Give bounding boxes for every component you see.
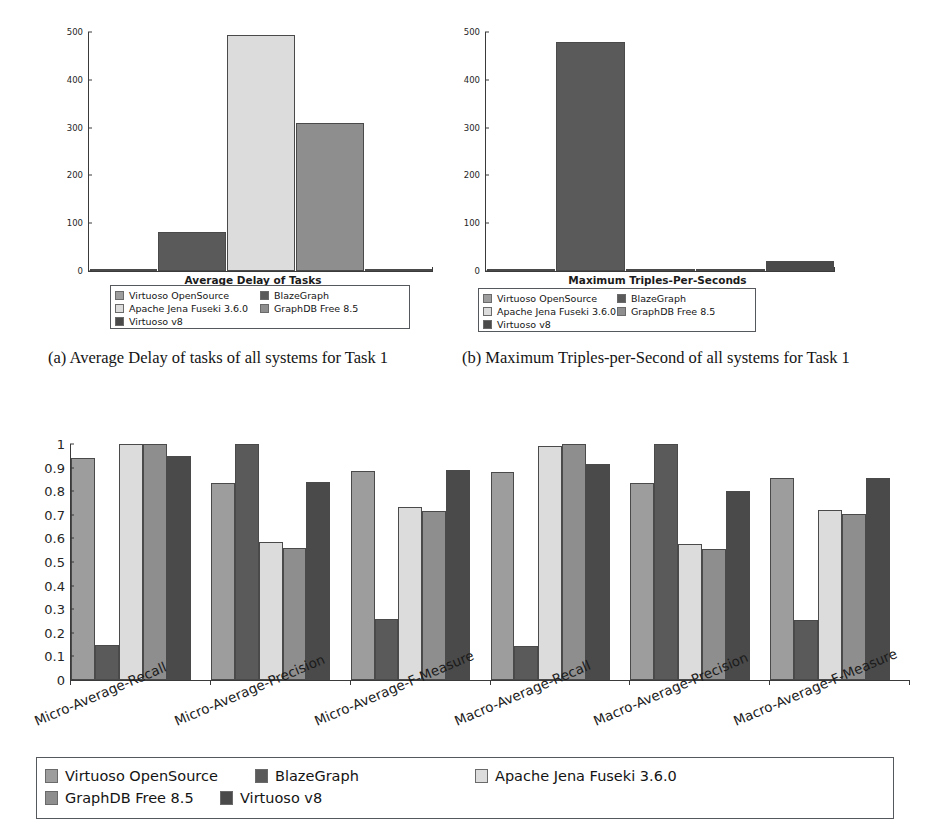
legend-item-label: Apache Jena Fuseki 3.6.0: [495, 768, 677, 784]
bar: [556, 42, 625, 271]
legend-color-swatch: [483, 307, 492, 316]
bar: [167, 456, 191, 680]
y-tick-label: 200: [67, 170, 88, 180]
y-tick-label: 0.2: [44, 625, 70, 640]
bar: [422, 511, 446, 680]
x-tick-mark: [210, 680, 211, 685]
x-tick-mark: [629, 680, 630, 685]
figure-b-legend: Virtuoso OpenSourceBlazeGraphApache Jena…: [478, 288, 756, 332]
bar: [626, 269, 695, 271]
legend-item-label: BlazeGraph: [275, 768, 359, 784]
bar: [538, 446, 562, 680]
y-tick-mark: [70, 609, 74, 610]
legend-color-swatch: [483, 294, 492, 303]
bar: [842, 514, 866, 680]
x-tick-mark: [490, 680, 491, 685]
y-tick-mark: [485, 32, 489, 33]
legend-item: Apache Jena Fuseki 3.6.0: [115, 302, 260, 315]
bar: [818, 510, 842, 680]
y-tick-label: 500: [464, 27, 485, 37]
legend-item: BlazeGraph: [260, 289, 405, 302]
y-tick-mark: [88, 271, 92, 272]
y-tick-mark: [70, 656, 74, 657]
y-tick-mark: [485, 175, 489, 176]
figure-page: { "systems": [ {"name": "Virtuoso OpenSo…: [0, 0, 926, 834]
figure-b-caption: (b) Maximum Triples-per-Second of all sy…: [462, 348, 862, 369]
bar: [770, 478, 794, 680]
y-tick-label: 0.6: [44, 531, 70, 546]
bar: [259, 542, 283, 680]
figure-c-legend-items: Virtuoso OpenSourceBlazeGraphApache Jena…: [45, 765, 885, 809]
y-tick-mark: [88, 127, 92, 128]
legend-color-swatch: [115, 304, 124, 313]
y-tick-label: 0.5: [44, 555, 70, 570]
figure-a-plot: 0100200300400500: [88, 32, 433, 272]
legend-color-swatch: [617, 294, 626, 303]
bar: [586, 464, 610, 680]
legend-item: GraphDB Free 8.5: [617, 305, 751, 318]
figure-c-panel: 00.10.20.30.40.50.60.70.80.91: [32, 438, 922, 688]
x-tick-mark: [350, 680, 351, 685]
bar: [227, 35, 295, 271]
legend-color-swatch: [45, 769, 58, 783]
bar: [90, 269, 158, 271]
bar: [71, 458, 95, 680]
bar: [794, 620, 818, 680]
y-tick-mark: [485, 127, 489, 128]
y-tick-label: 500: [67, 27, 88, 37]
y-tick-label: 0.9: [44, 460, 70, 475]
legend-item-label: BlazeGraph: [274, 290, 329, 301]
legend-item-label: GraphDB Free 8.5: [274, 303, 358, 314]
bar: [491, 472, 515, 680]
legend-item: Apache Jena Fuseki 3.6.0: [483, 305, 617, 318]
figure-a-panel: 0100200300400500 Average Delay of Tasks: [58, 22, 448, 277]
bar: [119, 444, 143, 680]
figure-c-legend: Virtuoso OpenSourceBlazeGraphApache Jena…: [36, 757, 894, 819]
bar: [630, 483, 654, 680]
bar: [306, 482, 330, 680]
y-tick-label: 0.8: [44, 484, 70, 499]
figure-b-title: Maximum Triples-Per-Seconds: [455, 274, 860, 286]
bar: [562, 444, 586, 680]
legend-item: GraphDB Free 8.5: [260, 302, 405, 315]
legend-color-swatch: [617, 307, 626, 316]
y-tick-mark: [88, 175, 92, 176]
legend-item-label: Virtuoso v8: [497, 319, 551, 330]
bar: [235, 444, 259, 680]
figure-b-x-axis: [485, 271, 835, 272]
y-tick-label: 0.1: [44, 649, 70, 664]
figure-c-plot: 00.10.20.30.40.50.60.70.80.91: [70, 444, 910, 681]
x-tick-mark: [769, 680, 770, 685]
figure-a-x-axis: [88, 271, 433, 272]
legend-color-swatch: [255, 769, 268, 783]
bar: [375, 619, 399, 680]
legend-item: BlazeGraph: [255, 765, 475, 787]
legend-item: Virtuoso OpenSource: [45, 765, 255, 787]
figure-b-panel: 0100200300400500 Maximum Triples-Per-Sec…: [455, 22, 860, 277]
bar: [398, 507, 422, 680]
y-tick-mark: [70, 585, 74, 586]
legend-item: Virtuoso v8: [483, 318, 617, 331]
bar: [95, 645, 119, 680]
y-tick-label: 100: [67, 218, 88, 228]
figure-c-bars: [71, 444, 910, 680]
legend-item-label: Apache Jena Fuseki 3.6.0: [129, 303, 248, 314]
legend-item: Apache Jena Fuseki 3.6.0: [475, 765, 755, 787]
legend-item-label: Virtuoso v8: [129, 316, 183, 327]
y-tick-label: 0.3: [44, 602, 70, 617]
figure-a-caption: (a) Average Delay of tasks of all system…: [48, 348, 443, 369]
bar: [766, 261, 835, 271]
legend-color-swatch: [115, 317, 124, 326]
legend-color-swatch: [483, 320, 492, 329]
y-tick-mark: [485, 271, 489, 272]
y-tick-mark: [485, 223, 489, 224]
x-axis-end-tick: [432, 267, 433, 272]
bar: [158, 232, 226, 271]
legend-color-swatch: [260, 291, 269, 300]
y-tick-label: 400: [67, 75, 88, 85]
y-tick-label: 0.4: [44, 578, 70, 593]
legend-item-label: GraphDB Free 8.5: [65, 790, 194, 806]
y-tick-mark: [70, 514, 74, 515]
y-tick-mark: [70, 491, 74, 492]
bar: [696, 269, 765, 271]
